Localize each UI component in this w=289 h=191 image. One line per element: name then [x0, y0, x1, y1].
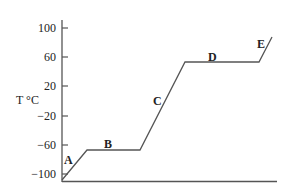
y-tick-label: −20 [37, 109, 56, 123]
segment-label-a: A [64, 153, 73, 167]
y-tick-label: 60 [44, 50, 56, 64]
y-tick-label: −100 [31, 167, 56, 181]
y-tick-label: 20 [44, 79, 56, 93]
segment-label-b: B [104, 137, 112, 151]
y-axis-label: T °C [16, 93, 39, 107]
segment-label-e: E [257, 37, 265, 51]
heating-curve-chart: 100 60 20 −20 −60 −100 T °C A B C D E [0, 0, 289, 191]
segment-label-d: D [208, 50, 217, 64]
heating-curve-line [62, 37, 272, 180]
y-tick-label: 100 [38, 21, 56, 35]
segment-label-c: C [153, 94, 162, 108]
y-tick-label: −60 [37, 138, 56, 152]
